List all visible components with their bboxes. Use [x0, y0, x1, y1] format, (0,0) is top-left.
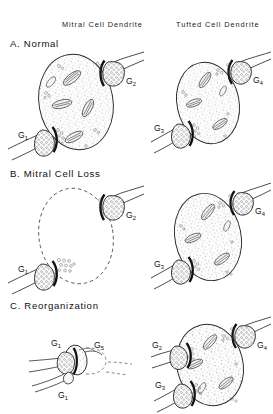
terminal-label-g3: G3	[154, 259, 164, 270]
terminal-label-g2: G2	[152, 340, 162, 351]
terminal-label-g3: G3	[155, 380, 165, 391]
terminal-label-g2: G2	[126, 210, 136, 221]
terminal-label-g1: G1	[18, 130, 28, 141]
terminal-label-g4: G4	[253, 75, 264, 86]
terminal-label-g5: G5	[94, 340, 104, 351]
terminal-label-g1: G1	[51, 338, 61, 349]
terminal-label-g4: G4	[255, 206, 266, 217]
terminal-g4	[231, 317, 271, 348]
dendrite-ghost-remnant	[86, 348, 132, 375]
terminal-label-g4: G4	[257, 340, 268, 351]
terminal-label-g3: G3	[154, 123, 164, 134]
terminal-g4	[227, 52, 271, 84]
panel-a-mitral-diagram: G2 G1	[0, 46, 150, 166]
column-header-mitral: Mitral Cell Dendrite	[62, 20, 143, 29]
panel-c-tufted-diagram: G4 G2 G3	[150, 316, 273, 414]
terminal-g1b	[32, 372, 73, 392]
column-header-tufted: Tufted Cell Dendrite	[176, 20, 259, 29]
terminal-g1	[8, 127, 64, 160]
panel-b-mitral-diagram: G2 G1	[0, 180, 150, 300]
terminal-label-g1-lower: G1	[58, 390, 68, 401]
panel-a-tufted-diagram: G4 G3	[150, 48, 273, 166]
terminal-label-g2: G2	[126, 76, 136, 87]
figure-canvas: Mitral Cell Dendrite Tufted Cell Dendrit…	[0, 0, 273, 414]
panel-label-c: C. Reorganization	[10, 300, 99, 311]
terminal-g2	[99, 186, 144, 220]
panel-label-b: B. Mitral Cell Loss	[10, 168, 101, 179]
panel-b-tufted-diagram: G4 G3	[150, 180, 273, 300]
panel-c-mitral-diagram: G1 G5 G1	[28, 328, 150, 414]
terminal-label-g1: G1	[18, 264, 28, 275]
